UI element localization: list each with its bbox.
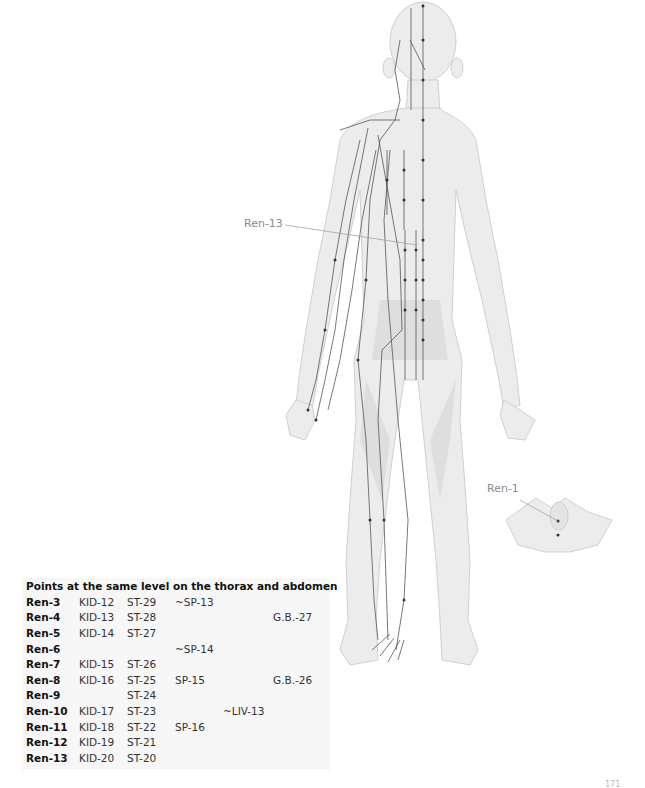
ren-point-cell: Ren-4 [26,611,79,623]
related-point-cell: G.B.-26 [273,674,323,686]
related-point-cell: ST-20 [127,752,175,764]
related-point-cell: SP-16 [175,721,223,733]
page-number: 171 [605,780,620,788]
related-point-cell: ~LIV-13 [223,705,273,717]
same-level-points-table: Points at the same level on the thorax a… [22,578,330,770]
ren-point-cell: Ren-13 [26,752,79,764]
table-row: Ren-7KID-15ST-26 [26,656,326,672]
table-row: Ren-5KID-14ST-27 [26,625,326,641]
related-point-cell: ST-21 [127,736,175,748]
related-point-cell: ST-29 [127,596,175,608]
table-row: Ren-12KID-19ST-21 [26,734,326,750]
related-point-cell: KID-13 [79,611,127,623]
ren-point-cell: Ren-12 [26,736,79,748]
ren-point-cell: Ren-10 [26,705,79,717]
related-point-cell: G.B.-27 [273,611,323,623]
table-title: Points at the same level on the thorax a… [26,580,326,592]
ren-point-cell: Ren-5 [26,627,79,639]
ren-point-cell: Ren-9 [26,689,79,701]
table-row: Ren-3KID-12ST-29~SP-13 [26,594,326,610]
related-point-cell: ST-24 [127,689,175,701]
perineum-inset [506,498,612,552]
table-rows: Ren-3KID-12ST-29~SP-13Ren-4KID-13ST-28G.… [26,594,326,766]
ren-point-cell: Ren-7 [26,658,79,670]
label-ren-1: Ren-1 [487,482,519,495]
related-point-cell: ST-25 [127,674,175,686]
related-point-cell: KID-17 [79,705,127,717]
related-point-cell: ST-23 [127,705,175,717]
related-point-cell: SP-15 [175,674,223,686]
label-ren-13: Ren-13 [244,217,283,230]
ren-point-cell: Ren-8 [26,674,79,686]
related-point-cell: ST-22 [127,721,175,733]
table-row: Ren-6~SP-14 [26,641,326,657]
table-row: Ren-8KID-16ST-25SP-15G.B.-26 [26,672,326,688]
related-point-cell: KID-15 [79,658,127,670]
related-point-cell: KID-18 [79,721,127,733]
related-point-cell: ST-26 [127,658,175,670]
ren-point-cell: Ren-3 [26,596,79,608]
related-point-cell: ~SP-14 [175,643,223,655]
related-point-cell: ST-27 [127,627,175,639]
related-point-cell: KID-14 [79,627,127,639]
table-row: Ren-10KID-17ST-23~LIV-13 [26,703,326,719]
related-point-cell: KID-16 [79,674,127,686]
table-row: Ren-11KID-18ST-22SP-16 [26,719,326,735]
table-row: Ren-9ST-24 [26,688,326,704]
related-point-cell: KID-12 [79,596,127,608]
ren-point-cell: Ren-6 [26,643,79,655]
related-point-cell: KID-19 [79,736,127,748]
table-row: Ren-4KID-13ST-28G.B.-27 [26,610,326,626]
related-point-cell: ~SP-13 [175,596,223,608]
ren-point-cell: Ren-11 [26,721,79,733]
related-point-cell: ST-28 [127,611,175,623]
table-row: Ren-13KID-20ST-20 [26,750,326,766]
related-point-cell: KID-20 [79,752,127,764]
